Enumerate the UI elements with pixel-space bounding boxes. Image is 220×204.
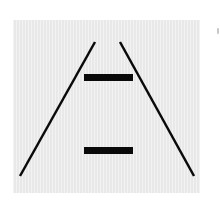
ponzo-illusion-figure: Ponzo illusion — [0, 0, 220, 204]
lower-horizontal-bar — [84, 147, 133, 154]
left-converging-line — [20, 42, 95, 176]
upper-horizontal-bar — [84, 74, 133, 81]
cropped-edge-mark — [217, 28, 219, 34]
right-converging-line — [120, 42, 194, 176]
